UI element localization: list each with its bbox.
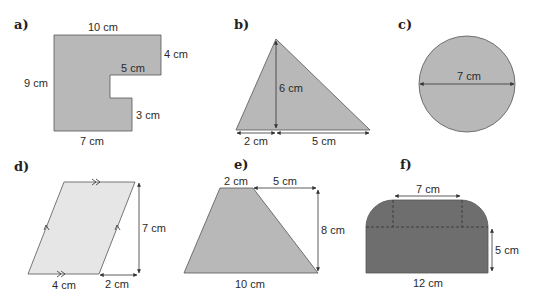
shape-f: f) 7 cm 5 cm 12 cm xyxy=(366,157,519,289)
label-c: c) xyxy=(398,17,412,32)
dim-bottom: 7 cm xyxy=(80,135,104,147)
dim-base: 4 cm xyxy=(52,279,76,291)
rounded-rectangle xyxy=(366,200,488,273)
shape-c: c) 7 cm xyxy=(398,17,515,132)
dim-height: 7 cm xyxy=(142,222,166,234)
label-a: a) xyxy=(14,17,29,32)
dim-notch-top: 5 cm xyxy=(121,62,145,74)
shape-a: a) 10 cm 4 cm 5 cm 9 cm 3 cm 7 cm xyxy=(14,17,188,147)
dim-notch-right: 3 cm xyxy=(136,109,160,121)
dim-height: 5 cm xyxy=(495,244,519,256)
label-f: f) xyxy=(400,157,412,172)
dim-base-left: 2 cm xyxy=(244,135,268,147)
shape-b: b) 6 cm 2 cm 5 cm xyxy=(234,17,370,147)
dim-diameter: 7 cm xyxy=(457,70,481,82)
dim-offset: 2 cm xyxy=(105,278,129,290)
label-e: e) xyxy=(234,157,248,172)
dim-top: 2 cm xyxy=(224,175,248,187)
dim-left: 9 cm xyxy=(24,77,48,89)
dim-bottom: 10 cm xyxy=(235,278,265,290)
dim-top: 10 cm xyxy=(88,21,118,33)
dim-height: 8 cm xyxy=(321,224,345,236)
trapezium xyxy=(184,188,318,273)
dim-bottom: 12 cm xyxy=(413,277,443,289)
dim-right-top: 4 cm xyxy=(164,48,188,60)
shapes-diagram: a) 10 cm 4 cm 5 cm 9 cm 3 cm 7 cm b) 6 c… xyxy=(0,0,540,305)
dim-top-offset: 5 cm xyxy=(273,175,297,187)
shape-d: d) 7 cm 2 cm 4 cm xyxy=(14,159,166,291)
dim-top-width: 7 cm xyxy=(416,183,440,195)
triangle xyxy=(236,39,370,130)
dim-base-right: 5 cm xyxy=(312,135,336,147)
dim-height: 6 cm xyxy=(279,82,303,94)
shape-e: e) 2 cm 5 cm 8 cm 10 cm xyxy=(184,157,345,290)
label-d: d) xyxy=(14,159,29,174)
label-b: b) xyxy=(234,17,249,32)
